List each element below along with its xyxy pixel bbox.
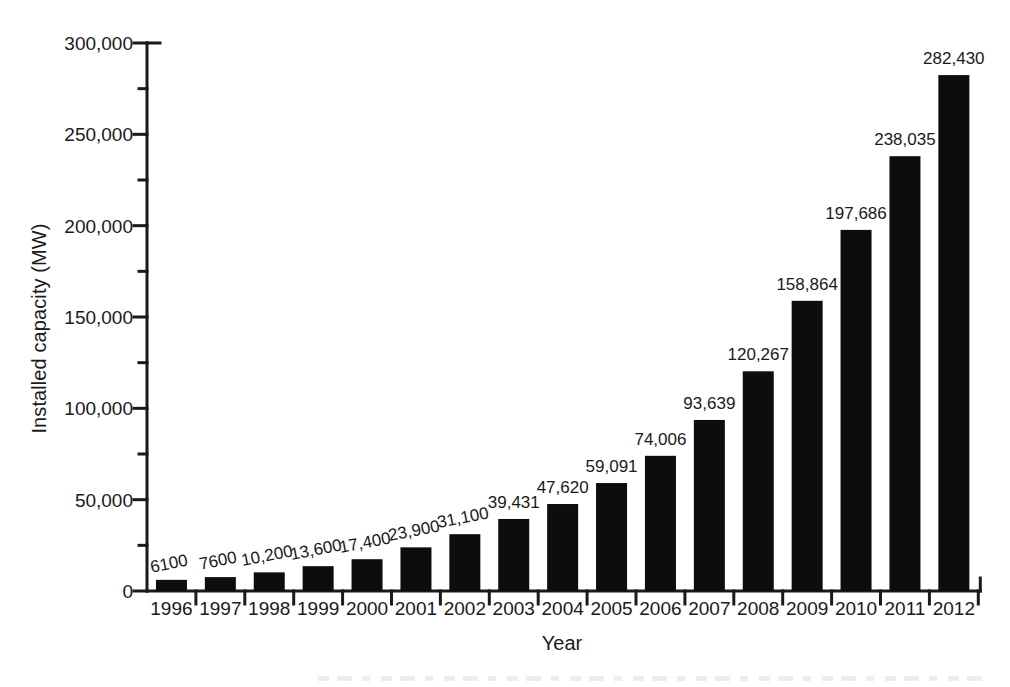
x-axis-title: Year	[147, 632, 977, 655]
bar	[254, 572, 285, 591]
bar	[400, 547, 431, 591]
bar-value-label: 120,267	[698, 345, 818, 365]
bar-value-label: 59,091	[552, 457, 672, 477]
bar-value-label: 197,686	[796, 204, 916, 224]
bars-group	[156, 75, 969, 591]
bar	[596, 483, 627, 591]
bar-value-label: 158,864	[747, 275, 867, 295]
bar	[547, 504, 578, 591]
bar-value-label: 282,430	[894, 49, 1010, 69]
axis-lines	[0, 0, 1010, 687]
bar	[205, 577, 236, 591]
bar-value-label: 74,006	[600, 430, 720, 450]
bar-chart: Installed capacity (MW) 050,000100,00015…	[0, 0, 1010, 687]
bar-value-label: 238,035	[845, 130, 965, 150]
bar	[938, 75, 969, 591]
bar	[449, 534, 480, 591]
bar-value-label: 47,620	[503, 478, 623, 498]
bar	[498, 519, 529, 591]
x-axis-tick-label: 2012	[924, 598, 984, 620]
bar	[303, 566, 334, 591]
bar-value-label: 93,639	[649, 394, 769, 414]
scan-artifact	[318, 676, 982, 681]
bar	[352, 559, 383, 591]
